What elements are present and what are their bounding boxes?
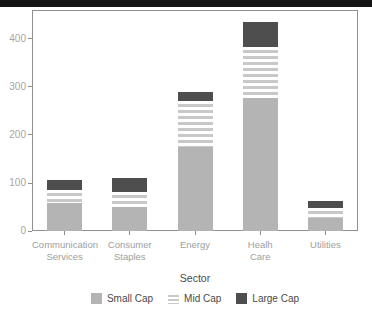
bar-segment-mid-cap bbox=[178, 101, 213, 147]
large-cap-swatch-icon bbox=[236, 293, 247, 304]
bar-segment-large-cap bbox=[243, 22, 278, 47]
legend-label-large-cap: Large Cap bbox=[252, 293, 299, 304]
legend-item-mid-cap: Mid Cap bbox=[168, 293, 221, 304]
y-axis-tick-label: 400 bbox=[0, 33, 26, 45]
bar-segment-large-cap bbox=[47, 180, 82, 190]
small-cap-swatch-icon bbox=[91, 293, 102, 304]
bar-segment-small-cap bbox=[47, 203, 82, 231]
y-axis-tick-label: 0 bbox=[0, 225, 26, 237]
y-axis-tick bbox=[28, 38, 32, 39]
x-axis-tick bbox=[195, 231, 196, 235]
x-axis-category-label: Utilities bbox=[293, 239, 358, 251]
bar-segment-small-cap bbox=[112, 207, 147, 231]
legend-item-small-cap: Small Cap bbox=[91, 293, 153, 304]
bar-segment-small-cap bbox=[308, 218, 343, 231]
mid-cap-swatch-icon bbox=[168, 293, 179, 304]
y-axis-tick bbox=[28, 183, 32, 184]
legend-item-large-cap: Large Cap bbox=[236, 293, 299, 304]
bar-segment-small-cap bbox=[243, 98, 278, 231]
y-axis-tick-label: 100 bbox=[0, 177, 26, 189]
x-axis-tick bbox=[129, 231, 130, 235]
x-axis-category-label: Energy bbox=[162, 239, 227, 251]
x-axis-tick bbox=[325, 231, 326, 235]
legend-label-small-cap: Small Cap bbox=[107, 293, 153, 304]
x-axis-title: Sector bbox=[32, 272, 358, 284]
y-axis-tick bbox=[28, 134, 32, 135]
stacked-bar-chart: Sector Small Cap Mid Cap Large Cap 01002… bbox=[0, 0, 372, 322]
x-axis-category-label: CommunicationServices bbox=[32, 239, 97, 262]
x-axis-tick bbox=[260, 231, 261, 235]
bar-segment-mid-cap bbox=[308, 208, 343, 218]
bar-segment-large-cap bbox=[112, 178, 147, 192]
bar-segment-large-cap bbox=[178, 92, 213, 101]
bar-segment-mid-cap bbox=[243, 47, 278, 98]
x-axis-tick bbox=[64, 231, 65, 235]
y-axis-tick bbox=[28, 231, 32, 232]
legend-label-mid-cap: Mid Cap bbox=[184, 293, 221, 304]
bar-segment-large-cap bbox=[308, 201, 343, 208]
y-axis-tick-label: 200 bbox=[0, 129, 26, 141]
y-axis-tick-label: 300 bbox=[0, 81, 26, 93]
y-axis-tick bbox=[28, 86, 32, 87]
x-axis-category-label: ConsumerStaples bbox=[97, 239, 162, 262]
legend: Small Cap Mid Cap Large Cap bbox=[32, 293, 358, 304]
x-axis-category-label: HealhCare bbox=[228, 239, 293, 262]
bar-segment-mid-cap bbox=[47, 190, 82, 203]
bar-segment-mid-cap bbox=[112, 192, 147, 207]
bar-segment-small-cap bbox=[178, 147, 213, 231]
